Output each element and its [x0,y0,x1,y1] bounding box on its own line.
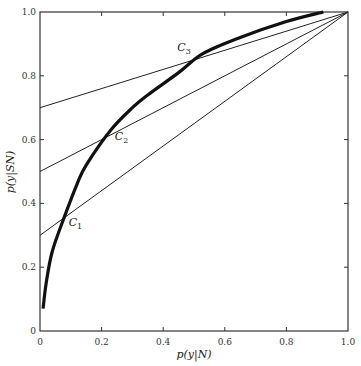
y-tick-label: 0.6 [22,135,37,145]
x-tick-label: 0.6 [218,337,233,347]
point-labels: C1C2C3 [69,41,191,231]
criterion-line [40,12,348,235]
y-axis-label: p(y|SN) [4,151,18,194]
roc-curve-path [43,12,323,309]
x-tick-label: 0.2 [94,337,108,347]
y-tick-label: 1.0 [22,7,37,17]
x-tick-label: 0 [37,337,43,347]
x-tick-label: 1.0 [341,337,356,347]
y-tick-label: 0.8 [22,71,37,81]
x-axis-label: p(y|N) [176,348,211,362]
y-tick-label: 0.2 [22,262,36,272]
y-tick-label: 0.4 [22,198,37,208]
roc-curve [43,12,323,309]
x-tick-label: 0.8 [279,337,294,347]
point-label-c1: C1 [69,216,83,231]
point-label-c2: C2 [115,130,129,145]
point-label-c3: C3 [177,41,191,56]
x-tick-label: 0.4 [156,337,171,347]
criterion-line [40,12,348,172]
criterion-lines [40,12,348,235]
y-tick-label: 0 [30,326,36,336]
axis-ticks: 00.20.40.60.81.000.20.40.60.81.0 [22,7,356,347]
roc-chart: 00.20.40.60.81.000.20.40.60.81.0 C1C2C3 … [0,0,361,366]
